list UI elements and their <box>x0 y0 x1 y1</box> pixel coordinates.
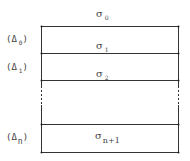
sigma-subscript: n+1 <box>103 136 120 145</box>
sigma-subscript: 1 <box>105 46 109 53</box>
corner-dot <box>178 152 180 154</box>
delta-symbol: (Δ <box>6 34 17 44</box>
sigma-label-0: σ0 <box>96 9 109 23</box>
corner-dot <box>178 53 180 55</box>
sigma-symbol: σ <box>95 130 102 141</box>
corner-dot <box>178 124 180 126</box>
delta-symbol: (Δ <box>6 62 17 72</box>
sigma-label-1: σ1 <box>96 41 109 55</box>
sigma-symbol: σ <box>96 68 103 79</box>
corner-dot <box>41 152 43 154</box>
sigma-symbol: σ <box>96 40 103 51</box>
corner-dot <box>41 124 43 126</box>
corner-dot <box>178 26 180 28</box>
sigma-label-n1: σn+1 <box>95 131 120 146</box>
thickness-label-1: (Δ1) <box>6 62 28 76</box>
corner-dot <box>41 53 43 55</box>
thickness-label-0: (Δ0) <box>6 34 28 48</box>
sigma-label-2: σ2 <box>96 69 109 83</box>
paren-close: ) <box>23 132 28 142</box>
delta-symbol: (Δ <box>6 132 17 142</box>
sigma-subscript: 2 <box>105 74 109 81</box>
corner-dot <box>178 80 180 82</box>
corner-dot <box>41 80 43 82</box>
thickness-label-n: (Δn) <box>6 132 28 147</box>
sigma-subscript: 0 <box>105 14 109 21</box>
paren-close: ) <box>22 34 27 44</box>
sigma-symbol: σ <box>96 8 103 19</box>
corner-dot <box>41 26 43 28</box>
paren-close: ) <box>22 62 27 72</box>
